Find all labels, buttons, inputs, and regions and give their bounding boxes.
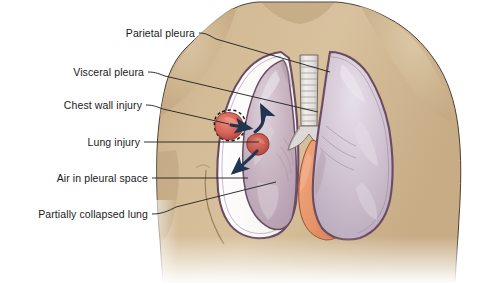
label-visceral-pleura: Visceral pleura (73, 66, 144, 78)
bottom-fade (140, 236, 493, 284)
label-parietal-pleura: Parietal pleura (126, 27, 195, 39)
label-chest-wall-injury: Chest wall injury (64, 99, 142, 111)
pneumothorax-illustration (0, 0, 493, 284)
label-lung-injury: Lung injury (88, 136, 140, 148)
label-partially-collapsed-lung: Partially collapsed lung (38, 208, 148, 220)
illustration-canvas: Parietal pleura Visceral pleura Chest wa… (0, 0, 493, 284)
label-air-in-pleural-space: Air in pleural space (57, 172, 148, 184)
